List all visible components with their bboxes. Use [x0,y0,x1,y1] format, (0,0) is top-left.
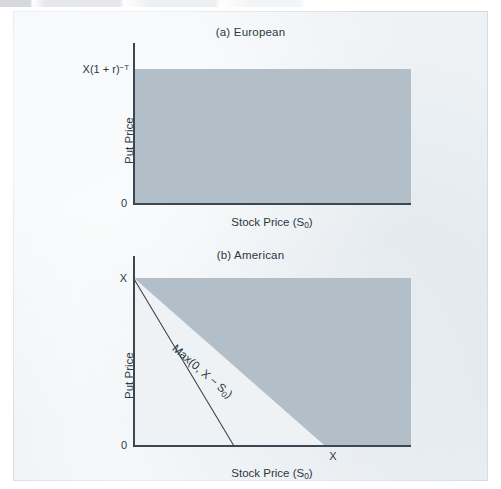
american-x-axis-title: Stock Price (S0) [133,467,411,481]
european-x-axis-title-tail: ) [309,216,313,228]
european-y-tick-upper-bound: X(1 + r)−T [5,63,129,75]
scan-running-head-strip [0,0,501,7]
european-x-axis [133,203,411,205]
european-y-tick-zero: 0 [99,197,127,209]
american-y-axis-title-text: Put Price [123,352,135,399]
american-x-axis-title-text: Stock Price (S [231,467,304,479]
panel-european-title: (a) European [13,26,488,38]
american-y-axis [133,256,135,446]
figure-page: (a) European X(1 + r)−T 0 Put Price Stoc… [13,11,488,481]
european-y-tick-upper-bound-exponent: −T [120,63,129,72]
american-x-axis [133,445,411,447]
panel-american: (b) American X 0 X Put Price Max(0, X − … [13,236,488,481]
european-x-axis-title-text: Stock Price (S [231,216,304,228]
european-y-tick-upper-bound-text: X(1 + r) [83,63,120,75]
european-x-axis-title: Stock Price (S0) [133,216,411,230]
panel-american-title: (b) American [13,249,488,261]
american-y-tick-zero: 0 [99,439,127,451]
european-feasible-region [134,69,411,203]
american-x-axis-title-tail: ) [309,467,313,479]
figure-screenshot: (a) European X(1 + r)−T 0 Put Price Stoc… [0,0,501,489]
panel-european: (a) European X(1 + r)−T 0 Put Price Stoc… [13,11,488,236]
american-y-tick-upper-bound: X [99,272,127,284]
american-y-axis-title: Put Price [123,352,135,399]
european-y-axis-title-text: Put Price [123,117,135,164]
european-y-axis-title: Put Price [123,117,135,164]
american-x-tick-strike: X [323,450,343,462]
